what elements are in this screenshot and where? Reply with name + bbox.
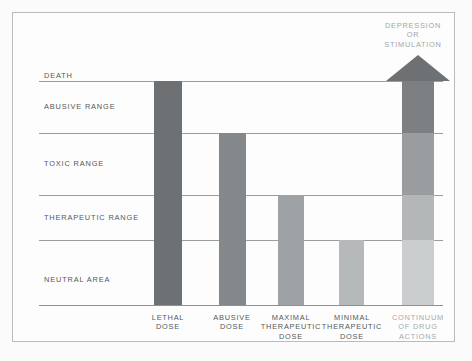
axis-baseline bbox=[39, 305, 443, 306]
xlabel-lethal-dose: LETHAL DOSE bbox=[138, 313, 198, 332]
annotation-line-3: STIMULATION bbox=[368, 40, 458, 49]
figure-container: DEATH ABUSIVE RANGE TOXIC RANGE THERAPEU… bbox=[0, 0, 472, 361]
zone-label-toxic-range: TOXIC RANGE bbox=[44, 159, 104, 168]
up-arrow-icon bbox=[386, 55, 450, 81]
chart-plot-area: DEATH ABUSIVE RANGE TOXIC RANGE THERAPEU… bbox=[39, 37, 456, 307]
bar-lethal-dose bbox=[154, 81, 182, 305]
continuum-band-abusive-range bbox=[402, 81, 434, 133]
continuum-band-therapeutic-range bbox=[402, 195, 434, 240]
xlabel-line: ACTIONS bbox=[378, 332, 458, 341]
continuum-band-neutral-area bbox=[402, 240, 434, 305]
zone-label-death: DEATH bbox=[44, 71, 73, 80]
zone-label-neutral-area: NEUTRAL AREA bbox=[44, 275, 110, 284]
bar-maximal-therapeutic-dose bbox=[278, 195, 304, 305]
gridline-death bbox=[39, 81, 443, 82]
bar-minimal-therapeutic-dose bbox=[339, 240, 364, 305]
bar-abusive-dose bbox=[219, 133, 246, 305]
xlabel-line: LETHAL bbox=[138, 313, 198, 322]
annotation-line-2: OR bbox=[368, 30, 458, 39]
zone-label-abusive-range: ABUSIVE RANGE bbox=[44, 102, 115, 111]
bar-continuum-of-drug-actions bbox=[402, 81, 434, 305]
annotation-line-1: DEPRESSION bbox=[368, 21, 458, 30]
zone-label-therapeutic-range: THERAPEUTIC RANGE bbox=[44, 213, 139, 222]
annotation-depression-or-stimulation: DEPRESSION OR STIMULATION bbox=[368, 21, 458, 49]
figure-frame: DEATH ABUSIVE RANGE TOXIC RANGE THERAPEU… bbox=[12, 12, 455, 342]
xlabel-line: CONTINUUM bbox=[378, 313, 458, 322]
xlabel-line: DOSE bbox=[138, 322, 198, 331]
xlabel-line: OF DRUG bbox=[378, 322, 458, 331]
continuum-band-toxic-range bbox=[402, 133, 434, 195]
xlabel-continuum-of-drug-actions: CONTINUUM OF DRUG ACTIONS bbox=[378, 313, 458, 341]
